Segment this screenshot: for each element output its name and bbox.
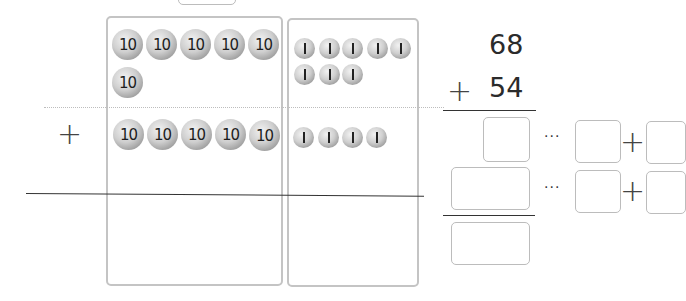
one-glyph-icon bbox=[352, 43, 354, 54]
coin-label: 10 bbox=[153, 36, 170, 54]
one-coin bbox=[390, 38, 411, 59]
addition-line bbox=[443, 110, 536, 111]
one-coin bbox=[294, 64, 315, 85]
addend-2: 54 bbox=[489, 72, 523, 103]
addition-plus-sign: + bbox=[447, 76, 472, 106]
coin-label: 10 bbox=[119, 74, 136, 92]
one-glyph-icon bbox=[400, 43, 402, 54]
coin-label: 10 bbox=[119, 36, 136, 54]
one-coin bbox=[342, 64, 363, 85]
ten-coin: 10 bbox=[146, 29, 177, 60]
one-coin bbox=[293, 127, 314, 148]
row-plus-sign: + bbox=[57, 119, 82, 149]
top-partial-box bbox=[178, 0, 236, 5]
one-coin bbox=[366, 127, 387, 148]
ten-coin: 10 bbox=[214, 29, 245, 60]
row-separator bbox=[44, 107, 444, 108]
split-plus-1: + bbox=[620, 127, 645, 157]
one-glyph-icon bbox=[376, 132, 378, 143]
coin-label: 10 bbox=[255, 36, 272, 54]
one-glyph-icon bbox=[329, 69, 331, 80]
split-left-box-2[interactable] bbox=[575, 170, 621, 213]
sum-line bbox=[443, 215, 535, 216]
ten-coin: 10 bbox=[215, 119, 246, 150]
ten-coin: 10 bbox=[112, 67, 143, 98]
one-glyph-icon bbox=[303, 132, 305, 143]
one-glyph-icon bbox=[304, 69, 306, 80]
coin-label: 10 bbox=[221, 36, 238, 54]
one-glyph-icon bbox=[304, 43, 306, 54]
split-plus-2: + bbox=[620, 176, 645, 206]
ellipsis-2: ··· bbox=[544, 179, 560, 195]
addend-1: 68 bbox=[489, 29, 523, 60]
ten-coin: 10 bbox=[181, 119, 212, 150]
one-glyph-icon bbox=[352, 132, 354, 143]
ones-answer-box[interactable] bbox=[483, 117, 530, 162]
one-coin bbox=[342, 127, 363, 148]
one-coin bbox=[318, 127, 339, 148]
ten-coin: 10 bbox=[112, 29, 143, 60]
one-coin bbox=[319, 38, 340, 59]
coin-label: 10 bbox=[154, 126, 171, 144]
one-glyph-icon bbox=[329, 43, 331, 54]
one-coin bbox=[294, 38, 315, 59]
ten-coin: 10 bbox=[147, 119, 178, 150]
ten-coin: 10 bbox=[248, 29, 279, 60]
one-glyph-icon bbox=[352, 69, 354, 80]
one-coin bbox=[367, 38, 388, 59]
one-coin bbox=[319, 64, 340, 85]
tens-answer-box[interactable] bbox=[451, 167, 530, 210]
sum-answer-box[interactable] bbox=[451, 222, 530, 265]
one-coin bbox=[342, 38, 363, 59]
split-left-box-1[interactable] bbox=[575, 120, 621, 163]
one-glyph-icon bbox=[328, 132, 330, 143]
ten-coin: 10 bbox=[249, 120, 280, 151]
ellipsis-1: ··· bbox=[544, 128, 560, 144]
coin-label: 10 bbox=[187, 36, 204, 54]
one-glyph-icon bbox=[377, 43, 379, 54]
coin-label: 10 bbox=[120, 126, 137, 144]
split-right-box-2[interactable] bbox=[646, 171, 686, 214]
ten-coin: 10 bbox=[180, 29, 211, 60]
ten-coin: 10 bbox=[113, 119, 144, 150]
coin-label: 10 bbox=[222, 126, 239, 144]
coin-label: 10 bbox=[188, 126, 205, 144]
split-right-box-1[interactable] bbox=[646, 121, 686, 164]
coin-label: 10 bbox=[256, 127, 273, 145]
